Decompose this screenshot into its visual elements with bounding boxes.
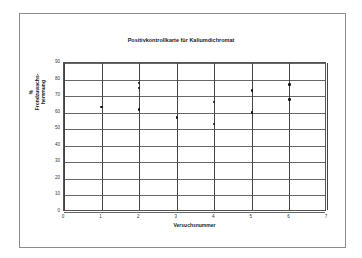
plot-area	[63, 62, 326, 211]
x-tick-label: 3	[171, 214, 181, 219]
h-gridline	[64, 96, 325, 97]
data-point	[138, 108, 140, 110]
data-point	[100, 106, 102, 108]
x-tick-label: 6	[283, 214, 293, 219]
y-axis-label: % Frondzuwachs-hemmung	[28, 72, 46, 112]
chart-title: Positivkontrollkarte für Kaliumdichromat	[0, 37, 362, 43]
y-tick-label: 40	[50, 142, 60, 147]
data-point	[288, 98, 290, 100]
data-point	[176, 116, 178, 118]
data-point	[288, 83, 290, 85]
data-point	[251, 89, 253, 91]
y-tick-label: 20	[50, 175, 60, 180]
h-gridline	[64, 80, 325, 81]
x-tick-label: 1	[96, 214, 106, 219]
y-tick-label: 70	[50, 92, 60, 97]
v-gridline	[102, 63, 103, 210]
v-gridline	[214, 63, 215, 210]
data-point	[251, 111, 253, 113]
x-tick-label: 7	[321, 214, 331, 219]
x-tick-label: 5	[246, 214, 256, 219]
x-tick-label: 0	[58, 214, 68, 219]
v-gridline	[177, 63, 178, 210]
v-gridline	[139, 63, 140, 210]
v-gridline	[327, 63, 328, 210]
h-gridline	[64, 195, 325, 196]
y-tick-label: 60	[50, 109, 60, 114]
x-axis-label: Versuchsnummer	[63, 222, 326, 228]
v-gridline	[64, 63, 65, 210]
h-gridline	[64, 129, 325, 130]
y-tick-label: 90	[50, 59, 60, 64]
h-gridline	[64, 146, 325, 147]
y-tick-label: 30	[50, 158, 60, 163]
x-tick-label: 2	[133, 214, 143, 219]
h-gridline	[64, 179, 325, 180]
h-gridline	[64, 113, 325, 114]
x-tick-label: 4	[208, 214, 218, 219]
h-gridline	[64, 63, 325, 64]
y-tick-label: 10	[50, 191, 60, 196]
y-tick-label: 80	[50, 76, 60, 81]
h-gridline	[64, 162, 325, 163]
y-tick-label: 0	[50, 208, 60, 213]
y-tick-label: 50	[50, 125, 60, 130]
h-gridline	[64, 212, 325, 213]
v-gridline	[252, 63, 253, 210]
